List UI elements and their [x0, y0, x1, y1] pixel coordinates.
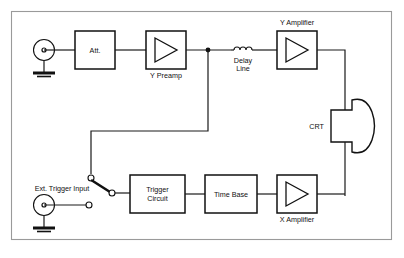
oscilloscope-block-diagram: Att. Y Preamp Delay Line Y Amplifier	[0, 0, 404, 258]
y-amplifier-label: Y Amplifier	[280, 18, 315, 27]
ext-trigger-ground-icon	[33, 216, 55, 232]
delay-line-coil-icon	[231, 47, 256, 50]
ext-trigger-input-jack[interactable]	[34, 195, 93, 216]
ext-trigger-input-label: Ext. Trigger Input	[35, 184, 90, 193]
delay-line-label-line2: Line	[236, 64, 250, 73]
y-preamp-block[interactable]	[146, 31, 186, 69]
time-base-label: Time Base	[214, 190, 248, 199]
y-input-jack[interactable]	[34, 40, 76, 61]
trigger-circuit-label-line2: Circuit	[147, 194, 167, 203]
x-amplifier-block[interactable]	[277, 175, 317, 213]
crt-label: CRT	[309, 122, 324, 131]
y-amplifier-block[interactable]	[277, 31, 317, 69]
y-input-ground-icon	[33, 61, 55, 77]
diagram-canvas: Att. Y Preamp Delay Line Y Amplifier	[0, 0, 404, 258]
attenuator-label: Att.	[90, 46, 101, 55]
trigger-source-switch[interactable]	[88, 175, 130, 196]
crt-tube[interactable]	[331, 99, 375, 153]
x-amplifier-label: X Amplifier	[280, 215, 315, 224]
trigger-circuit-label-line1: Trigger	[146, 185, 169, 194]
y-preamp-label: Y Preamp	[150, 71, 182, 80]
